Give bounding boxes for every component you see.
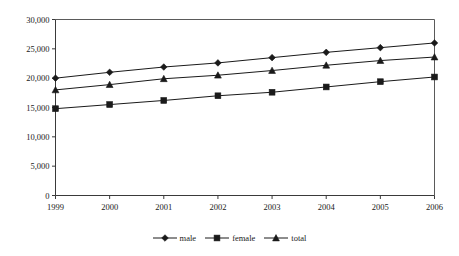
y-tick-label: 30,000	[26, 15, 49, 25]
legend-marker-total	[264, 233, 288, 243]
legend-marker-male	[153, 233, 177, 243]
square-marker-icon	[215, 93, 221, 99]
square-marker-icon	[377, 79, 383, 85]
x-tick-label: 2000	[101, 202, 118, 212]
square-marker-icon	[53, 106, 59, 112]
line-chart: 05,00010,00015,00020,00025,00030,000 199…	[0, 0, 459, 222]
x-tick-label: 2005	[372, 202, 389, 212]
square-marker-icon	[107, 102, 113, 108]
y-tick-label: 20,000	[26, 73, 49, 83]
x-tick-label: 2002	[209, 202, 226, 212]
square-marker-icon	[323, 84, 329, 90]
square-marker-icon	[214, 235, 220, 241]
y-tick-label: 15,000	[26, 103, 49, 113]
x-tick-label: 2001	[155, 202, 172, 212]
diamond-marker-icon	[161, 235, 168, 242]
y-tick-label: 5,000	[30, 161, 49, 171]
legend-label-male: male	[180, 234, 197, 243]
x-tick-label: 1999	[47, 202, 64, 212]
square-marker-icon	[432, 74, 438, 80]
legend-item-male[interactable]: male	[153, 233, 197, 243]
legend-label-female: female	[232, 234, 255, 243]
legend-marker-female	[205, 233, 229, 243]
chart-background	[0, 0, 459, 222]
y-tick-label: 0	[45, 191, 49, 201]
square-marker-icon	[161, 98, 167, 104]
x-tick-label: 2004	[318, 202, 336, 212]
y-tick-label: 25,000	[26, 44, 49, 54]
x-tick-label: 2003	[264, 202, 281, 212]
chart-legend: malefemaletotal	[0, 228, 459, 248]
chart-canvas: 05,00010,00015,00020,00025,00030,000 199…	[0, 0, 459, 222]
legend-item-female[interactable]: female	[205, 233, 255, 243]
chart-page: 05,00010,00015,00020,00025,00030,000 199…	[0, 0, 459, 256]
square-marker-icon	[269, 89, 275, 95]
legend-item-total[interactable]: total	[264, 233, 306, 243]
y-tick-label: 10,000	[26, 132, 49, 142]
legend-label-total: total	[291, 234, 306, 243]
x-tick-label: 2006	[426, 202, 443, 212]
